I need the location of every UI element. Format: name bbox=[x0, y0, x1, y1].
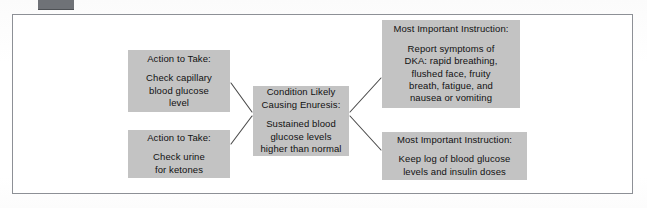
screenshot-root: Action to Take: Check capillary blood gl… bbox=[0, 0, 647, 208]
node-instruction-report-dka-header: Most Important Instruction: bbox=[393, 23, 508, 35]
toolbar-stub bbox=[38, 0, 74, 10]
node-action-check-ketones: Action to Take: Check urine for ketones bbox=[128, 130, 230, 178]
node-instruction-report-dka-body: Report symptoms of DKA: rapid breathing,… bbox=[405, 43, 498, 105]
node-instruction-keep-log: Most Important Instruction: Keep log of … bbox=[382, 132, 527, 180]
node-instruction-report-dka: Most Important Instruction: Report sympt… bbox=[382, 20, 520, 108]
node-action-check-ketones-header: Action to Take: bbox=[147, 132, 211, 144]
node-condition-causing-enuresis: Condition Likely Causing Enuresis: Susta… bbox=[253, 86, 349, 156]
node-instruction-keep-log-header: Most Important Instruction: bbox=[397, 134, 512, 146]
node-action-check-ketones-body: Check urine for ketones bbox=[153, 151, 205, 176]
node-condition-header: Condition Likely Causing Enuresis: bbox=[262, 86, 341, 111]
node-action-check-glucose: Action to Take: Check capillary blood gl… bbox=[128, 50, 230, 112]
node-action-check-glucose-header: Action to Take: bbox=[147, 53, 211, 65]
node-instruction-keep-log-body: Keep log of blood glucose levels and ins… bbox=[399, 153, 511, 178]
node-condition-body: Sustained blood glucose levels higher th… bbox=[260, 118, 341, 155]
node-action-check-glucose-body: Check capillary blood glucose level bbox=[146, 72, 212, 109]
